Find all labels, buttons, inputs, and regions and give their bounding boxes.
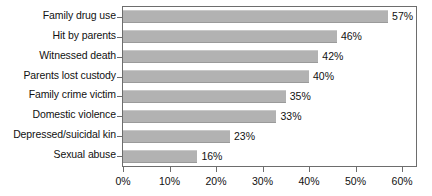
bar xyxy=(123,50,318,63)
value-tick xyxy=(402,167,403,172)
value-tick xyxy=(170,167,171,172)
bar-value-label: 35% xyxy=(290,90,311,103)
bar xyxy=(123,30,337,43)
bar-value-label: 42% xyxy=(322,50,343,63)
bar xyxy=(123,10,388,23)
bar xyxy=(123,90,286,103)
value-tick xyxy=(356,167,357,172)
value-tick xyxy=(216,167,217,172)
category-label: Family crime victim xyxy=(0,89,116,100)
bar xyxy=(123,110,276,123)
value-tick-label: 10% xyxy=(159,175,180,187)
category-label: Depressed/suicidal kin xyxy=(0,129,116,140)
value-tick-label: 30% xyxy=(252,175,273,187)
value-tick-label: 20% xyxy=(206,175,227,187)
value-tick xyxy=(123,167,124,172)
value-tick-label: 0% xyxy=(115,175,130,187)
category-label: Hit by parents xyxy=(0,30,116,41)
category-axis-labels: Family drug useHit by parentsWitnessed d… xyxy=(0,6,116,167)
bar xyxy=(123,150,197,163)
bar-value-label: 33% xyxy=(280,110,301,123)
bar-value-label: 46% xyxy=(341,30,362,43)
category-label: Family drug use xyxy=(0,10,116,21)
bars-layer: 57%46%42%40%35%33%23%16% xyxy=(123,7,416,166)
value-tick xyxy=(263,167,264,172)
value-tick xyxy=(309,167,310,172)
value-tick-label: 50% xyxy=(345,175,366,187)
value-tick-label: 40% xyxy=(299,175,320,187)
category-label: Domestic violence xyxy=(0,109,116,120)
bar xyxy=(123,130,230,143)
bar-value-label: 57% xyxy=(392,10,413,23)
bar xyxy=(123,70,309,83)
bar-value-label: 23% xyxy=(234,130,255,143)
category-label: Witnessed death xyxy=(0,50,116,61)
bar-value-label: 40% xyxy=(313,70,334,83)
value-tick-label: 60% xyxy=(392,175,413,187)
category-label: Parents lost custody xyxy=(0,70,116,81)
category-label: Sexual abuse xyxy=(0,149,116,160)
bar-value-label: 16% xyxy=(201,150,222,163)
bar-chart: Family drug useHit by parentsWitnessed d… xyxy=(0,0,432,196)
